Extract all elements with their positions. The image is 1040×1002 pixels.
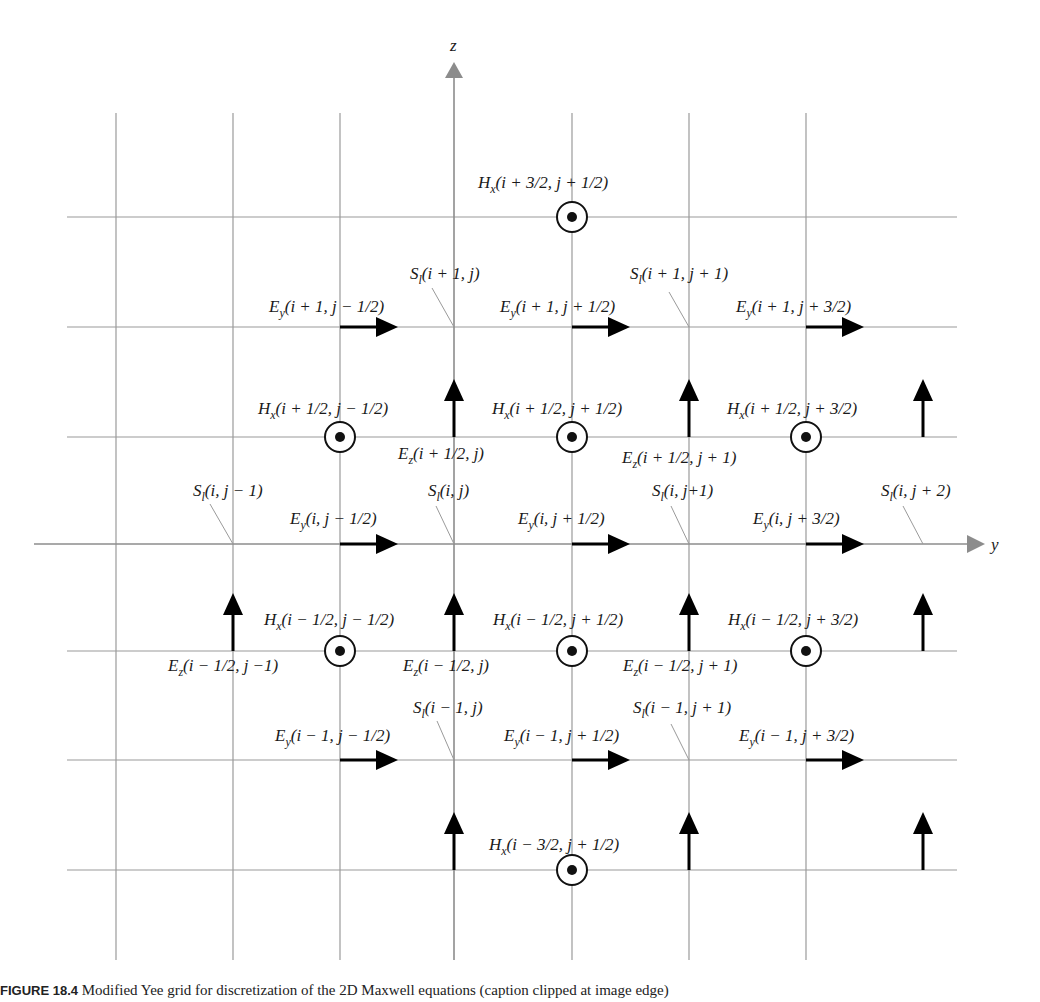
- y-axis-label: y: [989, 535, 999, 554]
- sl-node-label: Sl(i, j − 1): [193, 481, 263, 504]
- grid-lines: [67, 113, 957, 960]
- ey-field-label: Ey(i − 1, j + 1/2): [503, 726, 619, 749]
- sl-node-label: Sl(i, j+1): [652, 481, 713, 504]
- sl-node-label: Sl(i, j + 2): [881, 481, 951, 504]
- ez-arrow-icon: [913, 379, 933, 401]
- hx-field-label: Hx(i − 1/2, j + 1/2): [492, 610, 624, 633]
- ey-arrow-icon: [376, 534, 398, 554]
- ey-arrow-icon: [608, 534, 630, 554]
- ey-field-label: Ey(i + 1, j + 3/2): [735, 297, 851, 320]
- ey-field-label: Ey(i − 1, j + 3/2): [738, 726, 854, 749]
- ez-arrow-icon: [679, 812, 699, 834]
- ey-field-label: Ey(i, j + 3/2): [752, 509, 840, 532]
- ez-arrow-icon: [679, 379, 699, 401]
- hx-field-label: Hx(i + 3/2, j + 1/2): [477, 173, 609, 196]
- sl-leader-line: [903, 506, 923, 544]
- ey-field-label: Ey(i, j − 1/2): [289, 509, 377, 532]
- coordinate-axes: [34, 62, 985, 960]
- ey-field-label: Ey(i − 1, j − 1/2): [274, 726, 390, 749]
- ez-arrow-icon: [444, 379, 464, 401]
- ez-arrow-icon: [679, 593, 699, 615]
- sl-node-label: Sl(i + 1, j + 1): [630, 264, 728, 287]
- figure-caption: FIGURE 18.4 Modified Yee grid for discre…: [0, 982, 1040, 999]
- ez-arrow-icon: [913, 812, 933, 834]
- sl-leader-line: [671, 724, 689, 760]
- ey-arrow-icon: [376, 750, 398, 770]
- hx-dot-icon: [335, 432, 345, 442]
- ez-arrow-icon: [444, 812, 464, 834]
- caption-text: Modified Yee grid for discretization of …: [82, 982, 669, 998]
- sl-leader-line: [432, 288, 454, 327]
- ey-field-label: Ey(i + 1, j − 1/2): [268, 297, 384, 320]
- ez-field-label: Ez(i − 1/2, j −1): [167, 656, 279, 679]
- ez-arrow-icon: [444, 593, 464, 615]
- hx-dot-icon: [335, 646, 345, 656]
- ey-arrow-icon: [608, 317, 630, 337]
- hx-dot-icon: [567, 646, 577, 656]
- sl-node-label: Sl(i − 1, j): [413, 698, 483, 721]
- ey-arrow-icon: [842, 750, 864, 770]
- caption-label: FIGURE 18.4: [0, 983, 78, 998]
- sl-node-label: Sl(i, j): [428, 481, 469, 504]
- sl-leader-line: [669, 292, 689, 327]
- hx-field-label: Hx(i + 1/2, j − 1/2): [257, 399, 389, 422]
- sl-leader-line: [437, 721, 454, 760]
- hx-field-label: Hx(i − 3/2, j + 1/2): [488, 835, 620, 858]
- ey-arrow-icon: [842, 317, 864, 337]
- hx-dot-icon: [567, 432, 577, 442]
- hx-field-label: Hx(i + 1/2, j + 3/2): [726, 399, 858, 422]
- sl-leader-line: [671, 506, 689, 544]
- ey-arrow-icon: [608, 750, 630, 770]
- z-axis-arrowhead-icon: [445, 62, 463, 78]
- ez-field-label: Ez(i − 1/2, j): [402, 656, 489, 679]
- hx-dot-icon: [567, 212, 577, 222]
- ez-field-label: Ez(i − 1/2, j + 1): [622, 656, 738, 679]
- hx-field-label: Hx(i + 1/2, j + 1/2): [491, 399, 623, 422]
- ez-field-label: Ez(i + 1/2, j): [397, 444, 484, 467]
- ez-arrow-icon: [913, 593, 933, 615]
- hx-field-label: Hx(i − 1/2, j − 1/2): [263, 610, 395, 633]
- z-axis-label: z: [449, 36, 457, 55]
- hx-field-label: Hx(i − 1/2, j + 3/2): [727, 610, 859, 633]
- sl-leader-line: [210, 504, 233, 544]
- hx-dot-icon: [567, 865, 577, 875]
- ez-arrow-icon: [223, 593, 243, 615]
- ey-arrow-icon: [376, 317, 398, 337]
- sl-node-label: Sl(i + 1, j): [410, 264, 480, 287]
- y-axis-arrowhead-icon: [967, 535, 985, 553]
- hx-dot-icon: [801, 432, 811, 442]
- ey-field-label: Ey(i + 1, j + 1/2): [499, 297, 615, 320]
- hx-dot-icon: [801, 646, 811, 656]
- ez-field-label: Ez(i + 1/2, j + 1): [621, 448, 737, 471]
- ey-field-label: Ey(i, j + 1/2): [517, 509, 605, 532]
- sl-node-label: Sl(i − 1, j + 1): [633, 698, 731, 721]
- ey-arrow-icon: [842, 534, 864, 554]
- sl-leader-line: [436, 506, 454, 544]
